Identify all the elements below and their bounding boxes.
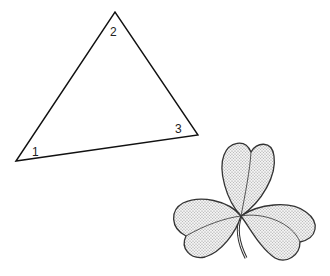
triangle: 1 2 3: [16, 12, 198, 161]
vertex-label-2: 2: [110, 25, 117, 39]
triangle-outline: [16, 12, 198, 161]
vertex-label-3: 3: [175, 122, 182, 136]
clover-icon: [174, 143, 316, 260]
figure-canvas: 1 2 3: [0, 0, 330, 276]
vertex-label-1: 1: [32, 145, 39, 159]
clover-leaf-left: [174, 199, 241, 257]
clover-leaf-right: [241, 205, 315, 260]
clover-leaf-top: [222, 143, 274, 216]
